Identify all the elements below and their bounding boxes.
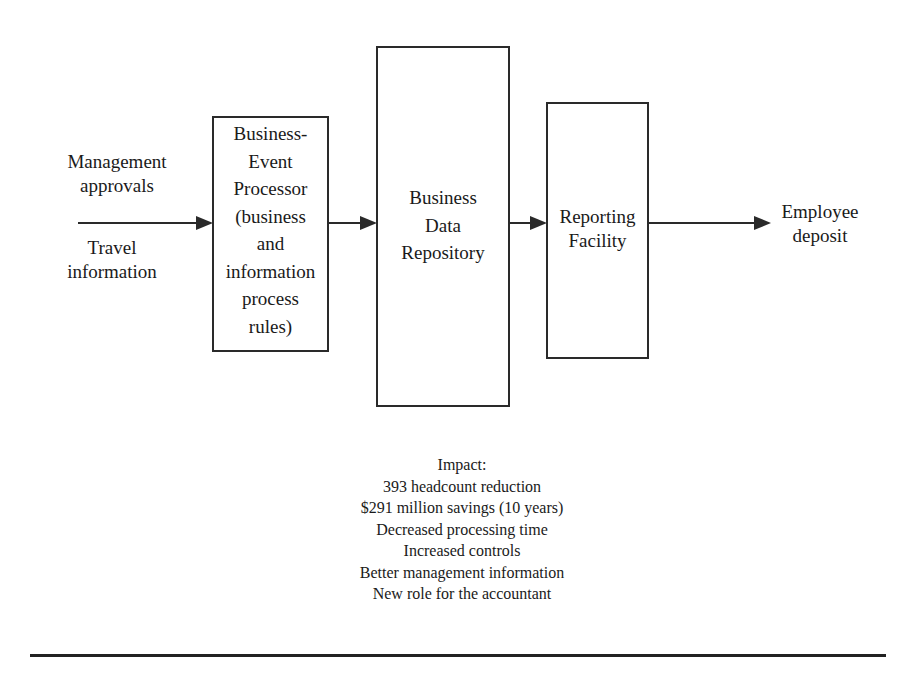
impact-summary: Impact: 393 headcount reduction $291 mil…	[300, 454, 624, 605]
impact-item: $291 million savings (10 years)	[300, 497, 624, 519]
reporting-facility-label: Reporting Facility	[546, 205, 649, 253]
impact-item: Decreased processing time	[300, 519, 624, 541]
business-data-repository-label: Business Data Repository	[376, 184, 510, 267]
impact-item: Increased controls	[300, 540, 624, 562]
input-label-travel-information: Travel information	[42, 236, 182, 284]
input-label-management-approvals: Management approvals	[42, 150, 192, 198]
impact-item: Better management information	[300, 562, 624, 584]
output-label-employee-deposit: Employee deposit	[765, 200, 875, 248]
impact-item: New role for the accountant	[300, 583, 624, 605]
impact-title: Impact:	[300, 454, 624, 476]
impact-item: 393 headcount reduction	[300, 476, 624, 498]
business-event-processor-label: Business- Event Processor (business and …	[212, 120, 329, 340]
bottom-divider	[30, 654, 886, 657]
